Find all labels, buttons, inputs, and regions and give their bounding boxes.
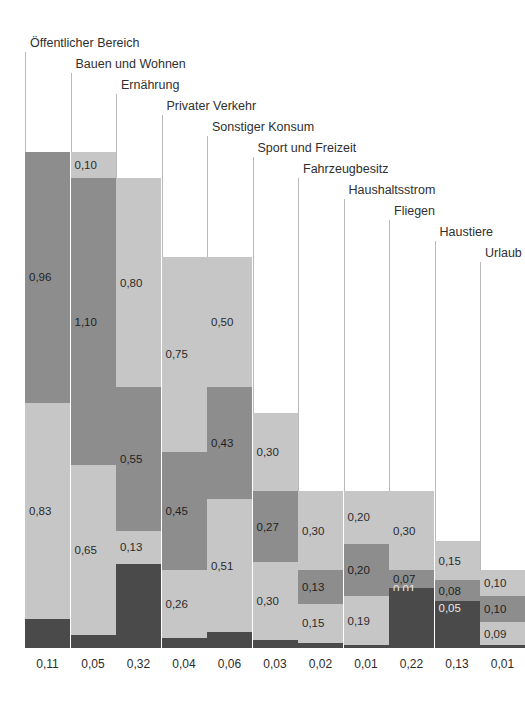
- bar-segment-fahrzeugbesitz-2[interactable]: 0,13: [298, 570, 343, 604]
- bar-segment-bauen-und-wohnen-2[interactable]: 1,10: [71, 178, 116, 465]
- category-label-haustiere: Haustiere: [440, 225, 494, 239]
- bar-ernaehrung[interactable]: 0,800,550,130,32: [116, 178, 161, 648]
- bar-segment-haushaltsstrom-1[interactable]: 0,20: [344, 491, 389, 543]
- bar-segment-fahrzeugbesitz-3[interactable]: 0,15: [298, 604, 343, 643]
- segment-value-label: 0,80: [116, 277, 142, 289]
- leader-line-sonstiger-konsum: [207, 136, 208, 257]
- bottom-value-urlaub: 0,01: [480, 658, 525, 671]
- category-label-fliegen: Fliegen: [394, 204, 435, 218]
- bottom-value-haushaltsstrom: 0,01: [344, 658, 389, 671]
- segment-value-label: 0,20: [344, 511, 370, 523]
- leader-line-oeffentlicher-bereich: [25, 52, 26, 152]
- bar-sonstiger-konsum[interactable]: 0,500,430,510,06: [207, 257, 252, 649]
- bar-fliegen[interactable]: 0,300,070,010,22: [389, 491, 434, 648]
- bar-segment-sonstiger-konsum-3[interactable]: 0,51: [207, 499, 252, 632]
- bar-oeffentlicher-bereich[interactable]: 0,960,830,11: [25, 152, 70, 648]
- bar-segment-privater-verkehr-1[interactable]: 0,75: [162, 257, 207, 453]
- bar-segment-oeffentlicher-bereich-1[interactable]: 0,96: [25, 152, 70, 403]
- category-label-bauen-und-wohnen: Bauen und Wohnen: [76, 57, 186, 71]
- bar-segment-urlaub-2[interactable]: 0,10: [480, 596, 525, 622]
- segment-value-label: 1,10: [71, 316, 97, 328]
- bar-segment-sport-und-freizeit-1[interactable]: 0,30: [253, 413, 298, 491]
- segment-value-label: 0,50: [207, 316, 233, 328]
- bottom-value-haustiere: 0,13: [435, 658, 480, 671]
- category-label-fahrzeugbesitz: Fahrzeugbesitz: [303, 162, 388, 176]
- bar-segment-haustiere-4[interactable]: 0,13: [435, 614, 480, 648]
- bar-segment-fliegen-4[interactable]: 0,22: [389, 591, 434, 648]
- bar-segment-haustiere-2[interactable]: 0,08: [435, 580, 480, 601]
- segment-value-label: 0,30: [253, 595, 279, 607]
- bar-segment-haushaltsstrom-2[interactable]: 0,20: [344, 544, 389, 596]
- bar-segment-privater-verkehr-2[interactable]: 0,45: [162, 452, 207, 569]
- bar-segment-oeffentlicher-bereich-2[interactable]: 0,83: [25, 403, 70, 620]
- category-label-privater-verkehr: Privater Verkehr: [167, 99, 257, 113]
- segment-value-label: 0,08: [435, 585, 461, 597]
- segment-value-label: 0,65: [71, 544, 97, 556]
- bar-segment-sonstiger-konsum-4[interactable]: 0,06: [207, 632, 252, 648]
- segment-value-label: 0,55: [116, 453, 142, 465]
- category-label-ernaehrung: Ernährung: [121, 78, 179, 92]
- bottom-value-fliegen: 0,22: [389, 658, 434, 671]
- bar-fahrzeugbesitz[interactable]: 0,300,130,150,02: [298, 491, 343, 648]
- bar-segment-oeffentlicher-bereich-3[interactable]: 0,11: [25, 619, 70, 648]
- segment-value-label: 0,96: [25, 271, 51, 283]
- bar-segment-urlaub-3[interactable]: 0,09: [480, 622, 525, 645]
- bottom-value-privater-verkehr: 0,04: [162, 658, 207, 671]
- bar-segment-ernaehrung-2[interactable]: 0,55: [116, 387, 161, 531]
- bar-segment-fahrzeugbesitz-4[interactable]: 0,02: [298, 643, 343, 648]
- bar-segment-sport-und-freizeit-4[interactable]: 0,03: [253, 640, 298, 648]
- bar-haushaltsstrom[interactable]: 0,200,200,190,01: [344, 491, 389, 648]
- segment-value-label: 0,15: [435, 555, 461, 567]
- category-label-urlaub: Urlaub: [485, 246, 522, 260]
- bar-bauen-und-wohnen[interactable]: 0,101,100,650,05: [71, 152, 116, 648]
- bar-privater-verkehr[interactable]: 0,750,450,260,04: [162, 257, 207, 649]
- bar-segment-urlaub-4[interactable]: 0,01: [480, 645, 525, 648]
- segment-value-label: 0,13: [298, 581, 324, 593]
- bar-segment-ernaehrung-1[interactable]: 0,80: [116, 178, 161, 387]
- segment-value-label: 0,45: [162, 505, 188, 517]
- bar-segment-privater-verkehr-3[interactable]: 0,26: [162, 570, 207, 638]
- segment-value-label: 0,19: [344, 615, 370, 627]
- bar-segment-haushaltsstrom-4[interactable]: 0,01: [344, 645, 389, 648]
- bar-segment-fahrzeugbesitz-1[interactable]: 0,30: [298, 491, 343, 569]
- leader-line-bauen-und-wohnen: [71, 73, 72, 152]
- category-label-sonstiger-konsum: Sonstiger Konsum: [212, 120, 314, 134]
- bar-segment-privater-verkehr-4[interactable]: 0,04: [162, 638, 207, 648]
- bar-segment-sport-und-freizeit-2[interactable]: 0,27: [253, 491, 298, 561]
- segment-value-label: 0,27: [253, 521, 279, 533]
- bar-haustiere[interactable]: 0,150,080,050,13: [435, 541, 480, 648]
- bar-segment-sonstiger-konsum-1[interactable]: 0,50: [207, 257, 252, 388]
- segment-value-label: 0,13: [116, 541, 142, 553]
- category-label-sport-und-freizeit: Sport und Freizeit: [258, 141, 357, 155]
- bar-segment-haustiere-1[interactable]: 0,15: [435, 541, 480, 580]
- segment-value-label: 0,30: [298, 525, 324, 537]
- bar-urlaub[interactable]: 0,100,100,090,01: [480, 570, 525, 648]
- bar-segment-ernaehrung-4[interactable]: 0,32: [116, 564, 161, 648]
- bar-segment-haustiere-3[interactable]: 0,05: [435, 601, 480, 614]
- bar-segment-sonstiger-konsum-2[interactable]: 0,43: [207, 387, 252, 499]
- segment-value-label: 0,10: [480, 577, 506, 589]
- segment-value-label: 0,51: [207, 560, 233, 572]
- leader-line-sport-und-freizeit: [253, 157, 254, 413]
- bottom-value-ernaehrung: 0,32: [116, 658, 161, 671]
- bar-sport-und-freizeit[interactable]: 0,300,270,300,03: [253, 413, 298, 648]
- bar-segment-urlaub-1[interactable]: 0,10: [480, 570, 525, 596]
- bar-segment-bauen-und-wohnen-3[interactable]: 0,65: [71, 465, 116, 635]
- leader-line-privater-verkehr: [162, 115, 163, 257]
- bar-segment-bauen-und-wohnen-4[interactable]: 0,05: [71, 635, 116, 648]
- leader-line-ernaehrung: [116, 94, 117, 178]
- bar-segment-sport-und-freizeit-3[interactable]: 0,30: [253, 562, 298, 640]
- bottom-value-bauen-und-wohnen: 0,05: [71, 658, 116, 671]
- bar-segment-fliegen-1[interactable]: 0,30: [389, 491, 434, 569]
- bar-segment-ernaehrung-3[interactable]: 0,13: [116, 531, 161, 565]
- bottom-value-oeffentlicher-bereich: 0,11: [25, 658, 70, 671]
- category-label-haushaltsstrom: Haushaltsstrom: [349, 183, 436, 197]
- segment-value-label: 0,15: [298, 617, 324, 629]
- leader-line-haushaltsstrom: [344, 199, 345, 491]
- category-label-oeffentlicher-bereich: Öffentlicher Bereich: [30, 36, 140, 50]
- bar-segment-haushaltsstrom-3[interactable]: 0,19: [344, 596, 389, 646]
- bar-segment-bauen-und-wohnen-1[interactable]: 0,10: [71, 152, 116, 178]
- segment-value-label: 0,83: [25, 505, 51, 517]
- bottom-value-fahrzeugbesitz: 0,02: [298, 658, 343, 671]
